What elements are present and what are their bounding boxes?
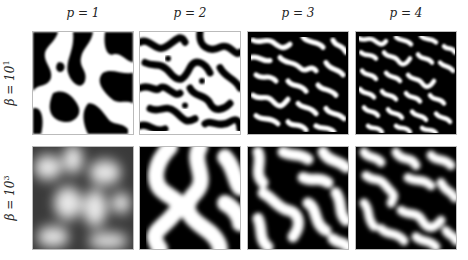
row-label-text: β = 10	[3, 66, 17, 106]
row-label-exponent: 3	[2, 176, 11, 181]
pattern-panel-beta3-p2	[139, 146, 241, 250]
pattern-panel-beta3-p1	[32, 146, 134, 250]
pattern-panel-beta3-p3	[247, 146, 349, 250]
row-label-beta-1e1: β = 101	[2, 31, 20, 135]
column-label-p4: p = 4	[355, 6, 457, 20]
column-label-p3: p = 3	[247, 6, 349, 20]
column-label-p2: p = 2	[139, 6, 241, 20]
pattern-panel-beta1-p4	[355, 31, 457, 135]
pattern-panel-beta1-p2	[139, 31, 241, 135]
row-label-exponent: 1	[2, 61, 11, 66]
row-label-text: β = 10	[3, 181, 17, 221]
pattern-panel-beta1-p3	[247, 31, 349, 135]
column-label-p1: p = 1	[32, 6, 134, 20]
row-label-beta-1e3: β = 103	[2, 146, 20, 250]
pattern-panel-beta3-p4	[355, 146, 457, 250]
pattern-panel-beta1-p1	[32, 31, 134, 135]
